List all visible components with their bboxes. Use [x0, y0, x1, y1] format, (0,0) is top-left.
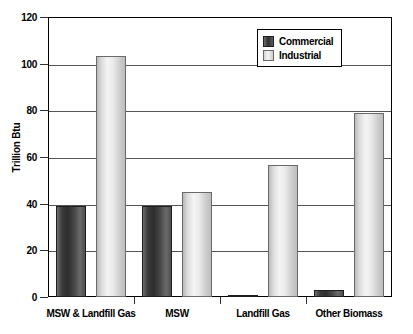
- y-tick-mark: [40, 250, 48, 251]
- bar-commercial: [56, 206, 86, 297]
- bar-industrial: [268, 165, 298, 297]
- y-tick-mark: [40, 204, 48, 205]
- y-tick-label: 120: [21, 12, 37, 23]
- legend-swatch-commercial: [263, 36, 274, 47]
- y-tick-label: 40: [26, 198, 37, 209]
- x-tick-label: MSW & Landfill Gas: [46, 308, 135, 319]
- bar-commercial: [142, 206, 172, 297]
- bar-industrial: [96, 56, 126, 298]
- y-tick-mark: [40, 110, 48, 111]
- chart-legend: Commercial Industrial: [257, 29, 342, 67]
- x-axis-separator: [220, 297, 221, 304]
- y-tick-label: 80: [26, 105, 37, 116]
- x-axis: MSW & Landfill GasMSWLandfill GasOther B…: [48, 297, 392, 334]
- x-tick-label: Landfill Gas: [236, 308, 290, 319]
- x-axis-separator: [134, 297, 135, 304]
- y-tick-label: 0: [32, 292, 37, 303]
- y-tick-mark: [40, 297, 48, 298]
- legend-label-commercial: Commercial: [279, 36, 333, 47]
- bar-industrial: [354, 113, 384, 297]
- bar-commercial: [314, 290, 344, 297]
- legend-swatch-industrial: [263, 50, 274, 61]
- bar-chart: Trillion Btu 020406080100120 MSW & Landf…: [0, 0, 413, 334]
- bar-industrial: [182, 192, 212, 297]
- y-tick-label: 100: [21, 58, 37, 69]
- y-tick-label: 20: [26, 245, 37, 256]
- legend-label-industrial: Industrial: [279, 50, 321, 61]
- y-axis-ticks: 020406080100120: [0, 0, 48, 334]
- y-tick-mark: [40, 17, 48, 18]
- x-axis-separator: [306, 297, 307, 304]
- bar-group: [48, 17, 134, 297]
- x-tick-label: MSW: [165, 308, 189, 319]
- y-tick-label: 60: [26, 152, 37, 163]
- bar-group: [134, 17, 220, 297]
- x-tick-label: Other Biomass: [315, 308, 382, 319]
- legend-item-industrial: Industrial: [263, 48, 333, 62]
- legend-item-commercial: Commercial: [263, 34, 333, 48]
- y-tick-mark: [40, 64, 48, 65]
- y-tick-mark: [40, 157, 48, 158]
